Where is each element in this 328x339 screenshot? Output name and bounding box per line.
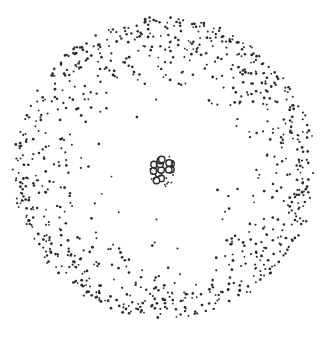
electron-dot bbox=[97, 262, 100, 265]
electron-dot bbox=[19, 181, 22, 184]
electron-dot bbox=[57, 108, 59, 110]
electron-dot bbox=[194, 310, 197, 313]
electron-dot bbox=[25, 140, 27, 142]
electron-dot bbox=[180, 30, 183, 33]
electron-dot bbox=[172, 56, 174, 58]
electron-dot bbox=[271, 216, 274, 219]
electron-dot bbox=[28, 116, 30, 118]
electron-dot bbox=[56, 205, 58, 207]
electron-dot bbox=[38, 130, 40, 132]
electron-dot bbox=[191, 23, 194, 26]
electron-dot bbox=[281, 229, 283, 231]
electron-dot bbox=[123, 26, 126, 29]
electron-dot bbox=[46, 254, 48, 256]
electron-dot bbox=[301, 146, 304, 149]
electron-dot bbox=[119, 35, 121, 37]
electron-dot bbox=[311, 135, 313, 137]
electron-dot bbox=[38, 243, 41, 246]
electron-dot bbox=[77, 62, 79, 64]
electron-dot bbox=[285, 158, 287, 160]
electron-dot bbox=[87, 98, 89, 100]
electron-dot bbox=[263, 264, 265, 266]
electron-dot bbox=[252, 100, 255, 103]
electron-dot bbox=[72, 52, 75, 55]
electron-dot bbox=[137, 50, 139, 52]
electron-dot bbox=[90, 217, 93, 220]
electron-dot bbox=[268, 66, 270, 68]
electron-dot bbox=[282, 139, 284, 141]
electron-dot bbox=[239, 284, 242, 287]
electron-dot bbox=[302, 131, 304, 133]
electron-dot bbox=[151, 45, 154, 48]
electron-dot bbox=[17, 160, 19, 162]
electron-dot bbox=[19, 185, 22, 188]
electron-dot bbox=[86, 57, 89, 60]
electron-dot bbox=[126, 266, 128, 268]
electron-dot bbox=[233, 282, 235, 284]
electron-dot bbox=[107, 299, 110, 302]
electron-dot bbox=[231, 38, 233, 40]
nucleus-speck bbox=[154, 178, 156, 180]
electron-dot bbox=[242, 42, 244, 44]
electron-dot bbox=[234, 234, 237, 237]
electron-dot bbox=[266, 120, 268, 122]
electron-dot bbox=[58, 165, 61, 168]
electron-dot bbox=[255, 251, 258, 254]
electron-dot bbox=[289, 173, 291, 175]
electron-dot bbox=[134, 283, 136, 285]
electron-dot bbox=[174, 282, 176, 284]
electron-dot bbox=[272, 239, 275, 242]
electron-dot bbox=[152, 19, 155, 22]
electron-dot bbox=[211, 279, 214, 282]
nucleus-speck bbox=[151, 173, 153, 175]
electron-dot bbox=[127, 27, 129, 29]
electron-dot bbox=[208, 302, 211, 305]
electron-dot bbox=[30, 208, 32, 210]
electron-dot bbox=[78, 61, 80, 63]
electron-dot bbox=[125, 33, 127, 35]
electron-dot bbox=[215, 294, 217, 296]
electron-dot bbox=[276, 218, 279, 221]
electron-dot bbox=[225, 40, 227, 42]
electron-dot bbox=[255, 281, 257, 283]
electron-dot bbox=[296, 189, 298, 191]
electron-dot bbox=[53, 68, 56, 71]
electron-dot bbox=[164, 302, 167, 305]
electron-dot bbox=[184, 297, 186, 299]
electron-dot bbox=[32, 138, 35, 141]
electron-dot bbox=[51, 72, 54, 75]
electron-dot bbox=[144, 82, 146, 84]
electron-dot bbox=[99, 111, 101, 113]
electron-dot bbox=[127, 64, 129, 66]
electron-dot bbox=[232, 87, 235, 90]
electron-dot bbox=[46, 262, 48, 264]
electron-dot bbox=[255, 169, 257, 171]
electron-dot bbox=[27, 199, 30, 202]
electron-dot bbox=[80, 114, 83, 117]
electron-dot bbox=[39, 119, 42, 122]
electron-dot bbox=[95, 291, 97, 293]
electron-dot bbox=[306, 185, 309, 188]
electron-dot bbox=[72, 264, 74, 266]
electron-dot bbox=[211, 283, 214, 286]
electron-dot bbox=[118, 211, 120, 213]
electron-dot bbox=[128, 312, 131, 315]
electron-dot bbox=[12, 168, 14, 170]
electron-dot bbox=[161, 297, 163, 299]
electron-dot bbox=[68, 195, 70, 197]
electron-dot bbox=[69, 192, 72, 195]
electron-dot bbox=[140, 309, 143, 312]
electron-dot bbox=[36, 101, 38, 103]
electron-dot bbox=[182, 299, 184, 301]
electron-dot bbox=[151, 304, 153, 306]
electron-dot bbox=[47, 112, 49, 114]
electron-dot bbox=[298, 161, 300, 163]
electron-dot bbox=[123, 61, 126, 64]
electron-dot bbox=[212, 31, 214, 33]
electron-dot bbox=[184, 306, 186, 308]
electron-dot bbox=[61, 265, 63, 267]
electron-dot bbox=[236, 54, 238, 56]
electron-dot bbox=[135, 282, 137, 284]
electron-dot bbox=[214, 61, 216, 63]
electron-dot bbox=[94, 34, 97, 37]
